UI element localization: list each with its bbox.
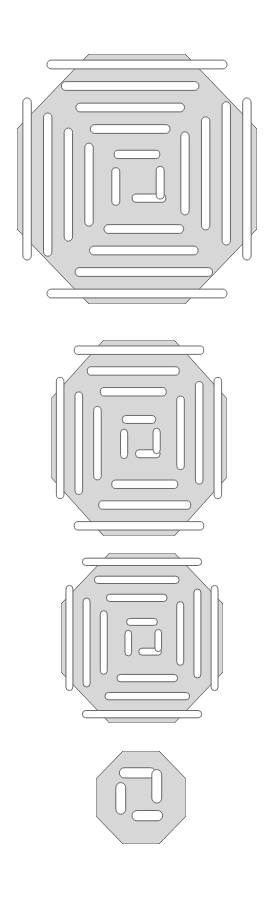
core-top-cap — [114, 150, 160, 158]
slot-top-2 — [106, 594, 167, 601]
medallion-large — [17, 54, 257, 304]
slot-bottom-2 — [112, 480, 178, 488]
slot-left-0 — [56, 377, 64, 498]
core-right-bar — [152, 770, 162, 803]
medallion-large-svg — [17, 54, 257, 304]
slot-bottom-0 — [47, 289, 227, 298]
slot-left-1 — [44, 113, 52, 256]
core-right-bar — [153, 428, 160, 453]
core-top-cap — [119, 768, 155, 778]
slot-bottom-0 — [82, 711, 201, 718]
slot-top-0 — [74, 346, 204, 354]
slot-left-2 — [100, 611, 107, 675]
medallion-small-svg — [61, 553, 223, 723]
medallion-small — [61, 553, 223, 723]
medallion-body — [96, 751, 186, 844]
medallion-tiny-svg — [96, 751, 186, 844]
slot-top-0 — [47, 60, 227, 69]
core-left-bar — [121, 429, 128, 458]
slot-left-2 — [94, 407, 102, 480]
slot-bottom-1 — [99, 501, 191, 509]
core-right-bar — [156, 167, 164, 200]
slot-left-1 — [75, 392, 83, 494]
slot-right-1 — [222, 102, 230, 245]
slot-bottom-3 — [104, 225, 184, 234]
slot-left-1 — [83, 598, 90, 687]
slot-right-1 — [195, 382, 203, 484]
core-bottom-cap — [132, 811, 163, 821]
medallion-tiny — [96, 751, 186, 844]
core-right-bar — [155, 630, 162, 652]
slot-bottom-1 — [105, 692, 190, 699]
slot-bottom-0 — [74, 522, 204, 530]
slot-right-3 — [181, 132, 189, 215]
slot-bottom-2 — [90, 246, 199, 255]
medallion-body — [17, 54, 257, 304]
artwork-canvas — [0, 0, 274, 902]
medallion-medium-svg — [51, 340, 227, 536]
slot-right-2 — [177, 396, 185, 469]
slot-left-2 — [64, 128, 72, 241]
slot-right-0 — [214, 377, 222, 498]
slot-right-2 — [177, 602, 184, 666]
slot-top-1 — [94, 576, 179, 583]
medallion-medium — [51, 340, 227, 536]
slot-top-3 — [90, 125, 170, 134]
slot-right-0 — [211, 585, 218, 690]
slot-left-0 — [66, 585, 73, 690]
slot-top-2 — [100, 388, 166, 396]
core-top-cap — [122, 415, 155, 423]
slot-top-0 — [82, 558, 201, 565]
core-left-bar — [125, 630, 132, 656]
slot-top-1 — [87, 367, 179, 375]
core-left-bar — [112, 168, 120, 206]
slot-right-2 — [201, 117, 209, 230]
core-left-bar — [116, 783, 126, 815]
core-top-cap — [127, 618, 158, 625]
slot-right-0 — [243, 98, 251, 260]
slot-left-0 — [23, 98, 31, 260]
slot-bottom-2 — [117, 674, 178, 681]
slot-top-2 — [76, 103, 185, 112]
slot-bottom-1 — [75, 268, 212, 277]
slot-top-1 — [61, 82, 198, 91]
slot-right-1 — [194, 589, 201, 678]
slot-left-3 — [85, 143, 93, 226]
